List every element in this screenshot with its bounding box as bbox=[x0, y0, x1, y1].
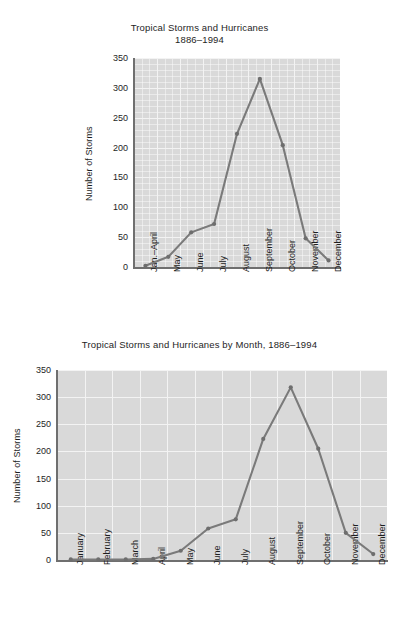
bottom-chart-data-point bbox=[179, 549, 183, 553]
top-chart-y-axis-title: Number of Storms bbox=[84, 126, 94, 201]
top-chart-data-point bbox=[212, 222, 216, 226]
bottom-chart-data-point bbox=[289, 385, 293, 389]
bottom-chart-data-point bbox=[124, 557, 128, 561]
top-chart-y-tick-label: 50 bbox=[102, 232, 128, 242]
bottom-chart-series-line bbox=[71, 387, 374, 559]
top-chart-y-tick-label: 300 bbox=[102, 83, 128, 93]
bottom-chart-data-point bbox=[206, 526, 210, 530]
bottom-chart-data-point bbox=[69, 557, 73, 561]
figure-top-chart: Tropical Storms and Hurricanes 1886–1994… bbox=[0, 0, 399, 330]
bottom-chart-y-tick-label: 50 bbox=[25, 528, 51, 538]
top-chart-data-point bbox=[258, 77, 262, 81]
top-chart-y-tick-label: 100 bbox=[102, 202, 128, 212]
bottom-chart-data-point bbox=[371, 552, 375, 556]
bottom-chart-data-point bbox=[261, 437, 265, 441]
figure-bottom-chart: Tropical Storms and Hurricanes by Month,… bbox=[0, 330, 399, 631]
bottom-chart-series-layer bbox=[57, 370, 387, 560]
bottom-chart-y-tick-label: 0 bbox=[25, 555, 51, 565]
bottom-chart-title: Tropical Storms and Hurricanes by Month,… bbox=[0, 330, 399, 351]
top-chart-series-line bbox=[145, 79, 328, 266]
top-chart-series-layer bbox=[134, 58, 340, 267]
top-chart-y-tick-label: 200 bbox=[102, 143, 128, 153]
top-chart-title: Tropical Storms and Hurricanes 1886–1994 bbox=[0, 0, 399, 46]
top-chart-data-point bbox=[235, 132, 239, 136]
bottom-chart-y-tick-label: 100 bbox=[25, 501, 51, 511]
bottom-chart-y-tick-label: 200 bbox=[25, 446, 51, 456]
top-chart-data-point bbox=[304, 236, 308, 240]
bottom-chart-y-tick-label: 250 bbox=[25, 419, 51, 429]
bottom-chart-y-axis-title: Number of Storms bbox=[12, 428, 22, 503]
top-chart-data-point bbox=[143, 264, 147, 268]
bottom-chart-y-tick-label: 350 bbox=[25, 365, 51, 375]
bottom-chart-data-point bbox=[344, 531, 348, 535]
top-chart-y-tick-label: 150 bbox=[102, 172, 128, 182]
bottom-chart-data-point bbox=[234, 517, 238, 521]
bottom-chart-data-point bbox=[96, 557, 100, 561]
bottom-chart-data-point bbox=[316, 447, 320, 451]
top-chart-data-point bbox=[281, 143, 285, 147]
top-chart-data-point bbox=[166, 255, 170, 259]
top-chart-data-point bbox=[326, 258, 330, 262]
top-chart-data-point bbox=[189, 230, 193, 234]
bottom-chart-data-point bbox=[151, 557, 155, 561]
bottom-chart-y-tick-label: 300 bbox=[25, 392, 51, 402]
top-chart-y-tick-label: 250 bbox=[102, 113, 128, 123]
top-chart-y-tick-label: 0 bbox=[102, 262, 128, 272]
top-chart-y-tick-label: 350 bbox=[102, 53, 128, 63]
bottom-chart-y-tick-label: 150 bbox=[25, 474, 51, 484]
